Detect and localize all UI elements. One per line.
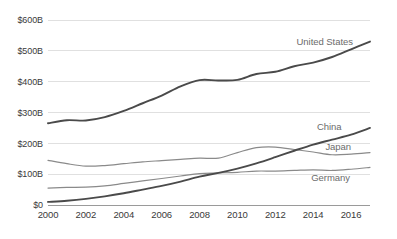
chart-canvas: $0$100B$200B$300B$400B$500B$600B20002002… bbox=[0, 0, 397, 239]
series-label-china: China bbox=[317, 121, 342, 132]
x-axis-tick-label: 2008 bbox=[189, 209, 210, 220]
series-line-china bbox=[48, 128, 370, 202]
x-axis-tick-label: 2016 bbox=[341, 209, 362, 220]
series-label-japan: Japan bbox=[325, 141, 351, 152]
y-axis-tick-label: $100B bbox=[17, 169, 43, 179]
y-axis-tick-label: $400B bbox=[17, 77, 43, 87]
x-axis-tick-label: 2002 bbox=[76, 209, 97, 220]
y-axis-tick-label: $600B bbox=[17, 15, 43, 25]
x-axis-tick-label: 2004 bbox=[113, 209, 134, 220]
y-axis-tick-label: $200B bbox=[17, 139, 43, 149]
x-axis-tick-label: 2010 bbox=[227, 209, 248, 220]
x-axis-tick-label: 2000 bbox=[38, 209, 59, 220]
x-axis-tick-label: 2006 bbox=[151, 209, 172, 220]
y-axis-tick-label: $300B bbox=[17, 108, 43, 118]
series-line-japan bbox=[48, 147, 370, 166]
series-line-united-states bbox=[48, 42, 370, 124]
series-label-germany: Germany bbox=[311, 172, 350, 183]
x-axis-tick-label: 2014 bbox=[303, 209, 324, 220]
x-axis-tick-label: 2012 bbox=[265, 209, 286, 220]
line-chart: $0$100B$200B$300B$400B$500B$600B20002002… bbox=[0, 0, 397, 239]
y-axis-tick-label: $500B bbox=[17, 46, 43, 56]
series-label-united-states: United States bbox=[297, 36, 354, 47]
